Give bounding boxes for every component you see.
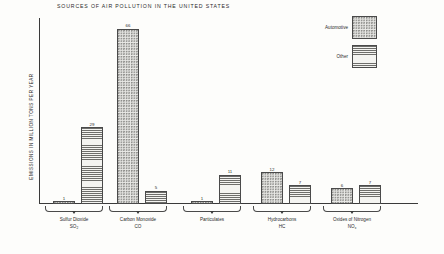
bar-group-carbon-monoxide: 66 5 xyxy=(113,18,173,204)
legend: Automotive Other xyxy=(300,16,410,76)
legend-swatch-icon xyxy=(352,45,377,68)
bar-value-label: 11 xyxy=(220,169,240,174)
category-label: Particulates xyxy=(173,217,251,222)
category-tick-icon xyxy=(350,211,354,214)
formula-subscript: 2 xyxy=(76,226,78,230)
formula-main: HC xyxy=(279,224,286,229)
formula-subscript: x xyxy=(355,226,357,230)
bar-other[interactable]: 7 xyxy=(289,185,311,204)
bar-value-label: 1 xyxy=(192,196,212,201)
bars: 1 11 xyxy=(187,18,247,204)
category-formula: HC xyxy=(243,224,321,229)
bars: 66 5 xyxy=(113,18,173,204)
bar-automotive[interactable]: 6 xyxy=(331,188,353,204)
legend-label: Automotive xyxy=(325,25,348,30)
category-tick-icon xyxy=(210,211,214,214)
y-axis-label: EMISSIONS IN MILLION TONS PER YEAR xyxy=(29,67,34,187)
legend-item-automotive[interactable]: Automotive xyxy=(300,16,410,40)
category-axis-sulfur-dioxide: Sulfur Dioxide SO2 xyxy=(45,204,103,240)
bar-group-sulfur-dioxide: 1 29 xyxy=(49,18,109,204)
category-axis-oxides-of-nitrogen: Oxides of Nitrogen NOx xyxy=(323,204,381,240)
category-tick-icon xyxy=(72,211,76,214)
bar-value-label: 66 xyxy=(118,23,138,28)
bar-value-label: 29 xyxy=(82,122,102,127)
bar-automotive[interactable]: 12 xyxy=(261,172,283,204)
category-label: Carbon Monoxide xyxy=(99,217,177,222)
formula-main: NO xyxy=(348,224,355,229)
page-title: SOURCES OF AIR POLLUTION IN THE UNITED S… xyxy=(57,3,230,9)
bar-value-label: 1 xyxy=(54,196,74,201)
category-axis-particulates: Particulates xyxy=(183,204,241,240)
category-tick-icon xyxy=(280,211,284,214)
chart-page: SOURCES OF AIR POLLUTION IN THE UNITED S… xyxy=(0,0,444,254)
category-label: Oxides of Nitrogen xyxy=(313,217,391,222)
bar-value-label: 7 xyxy=(360,180,380,185)
bar-automotive[interactable]: 66 xyxy=(117,29,139,205)
category-axis-carbon-monoxide: Carbon Monoxide CO xyxy=(109,204,167,240)
formula-main: CO xyxy=(135,224,142,229)
bar-value-label: 7 xyxy=(290,180,310,185)
bar-group-particulates: 1 11 xyxy=(187,18,247,204)
legend-item-other[interactable]: Other xyxy=(300,45,410,69)
legend-label: Other xyxy=(337,54,349,59)
bar-other[interactable]: 7 xyxy=(359,185,381,204)
bar-other[interactable]: 11 xyxy=(219,175,241,204)
bar-value-label: 5 xyxy=(146,185,166,190)
category-formula: NOx xyxy=(313,224,391,229)
bar-other[interactable]: 29 xyxy=(81,127,103,204)
bar-value-label: 6 xyxy=(332,183,352,188)
bar-value-label: 12 xyxy=(262,167,282,172)
category-label: Hydrocarbons xyxy=(243,217,321,222)
category-formula: CO xyxy=(99,224,177,229)
legend-swatch-icon xyxy=(352,16,377,39)
bar-other[interactable]: 5 xyxy=(145,191,167,204)
bars: 1 29 xyxy=(49,18,109,204)
category-axis-hydrocarbons: Hydrocarbons HC xyxy=(253,204,311,240)
category-tick-icon xyxy=(136,211,140,214)
